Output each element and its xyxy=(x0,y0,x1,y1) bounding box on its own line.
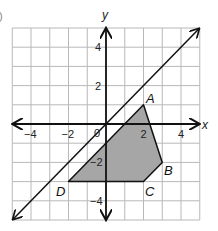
origin-label: 0 xyxy=(94,127,100,139)
x-tick-label: 2 xyxy=(141,128,147,140)
y-tick-label: −4 xyxy=(90,195,103,207)
y-tick-label: 4 xyxy=(95,41,101,53)
coordinate-plane-figure: ) x y 0 −4−224 42−2−4 A B C D xyxy=(0,0,218,231)
vertex-label-d: D xyxy=(56,184,65,199)
corner-mark: ) xyxy=(0,10,3,22)
y-tick-label: −2 xyxy=(90,156,103,168)
y-tick-label: 2 xyxy=(95,80,101,92)
x-tick-label: 4 xyxy=(178,128,184,140)
vertex-label-c: C xyxy=(145,184,155,199)
x-tick-labels: −4−224 xyxy=(24,128,184,140)
vertex-label-a: A xyxy=(145,91,155,106)
y-axis-label: y xyxy=(101,8,109,22)
vertex-label-b: B xyxy=(164,163,173,178)
x-axis-label: x xyxy=(201,118,209,132)
x-tick-label: −2 xyxy=(62,128,75,140)
x-tick-label: −4 xyxy=(24,128,37,140)
